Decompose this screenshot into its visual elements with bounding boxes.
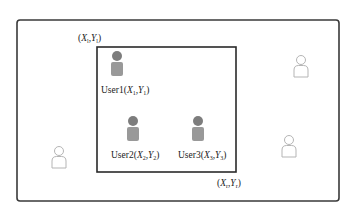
user1-icon xyxy=(111,51,123,76)
outside-user-icon xyxy=(282,136,296,158)
user1-label: User1(X1,Y1) xyxy=(101,85,150,96)
user3-label: User3(X3,Y3) xyxy=(178,150,227,161)
user2-icon xyxy=(127,116,139,141)
diagram-canvas: (Xl,Yl) (Xr,Yr) User1(X1,Y1) User2(X2,Y2… xyxy=(0,0,357,214)
bottom-right-corner-label: (Xr,Yr) xyxy=(217,178,241,189)
user3-icon xyxy=(192,116,204,141)
outside-user-icon xyxy=(52,147,66,169)
top-left-corner-label: (Xl,Yl) xyxy=(78,33,101,44)
user2-label: User2(X2,Y2) xyxy=(111,150,160,161)
outside-user-icon xyxy=(294,56,308,78)
